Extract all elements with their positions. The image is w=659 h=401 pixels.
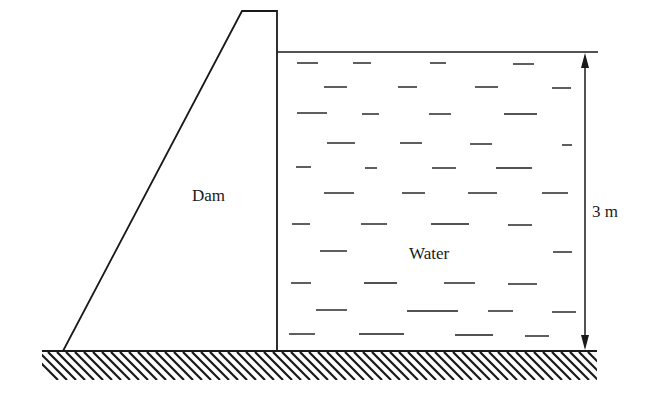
water-dashes xyxy=(289,63,576,336)
dam-outline xyxy=(63,11,277,351)
water-label: Water xyxy=(409,244,449,264)
ground-hatch xyxy=(30,352,616,380)
arrow-down-icon xyxy=(581,335,589,350)
arrow-up-icon xyxy=(581,53,589,68)
dam-diagram xyxy=(0,0,659,401)
height-dimension-arrow xyxy=(581,53,589,350)
dam-label: Dam xyxy=(192,186,225,206)
height-label: 3 m xyxy=(592,202,618,222)
